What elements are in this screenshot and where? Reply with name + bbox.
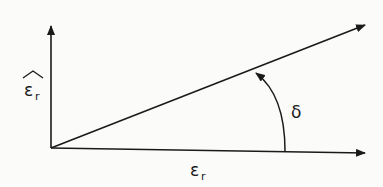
hat-accent-icon (23, 71, 43, 78)
horizontal-axis (51, 148, 365, 153)
vertical-axis-subscript: r (35, 90, 40, 103)
horizontal-axis-label: ε (190, 160, 199, 180)
vertical-axis-label: ε (24, 80, 33, 100)
horizontal-axis-subscript: r (201, 170, 206, 183)
angle-arc (256, 73, 285, 151)
phasor-diagram: ε r ε r δ (0, 0, 383, 187)
angle-label: δ (291, 102, 301, 122)
resultant-vector (51, 25, 365, 148)
